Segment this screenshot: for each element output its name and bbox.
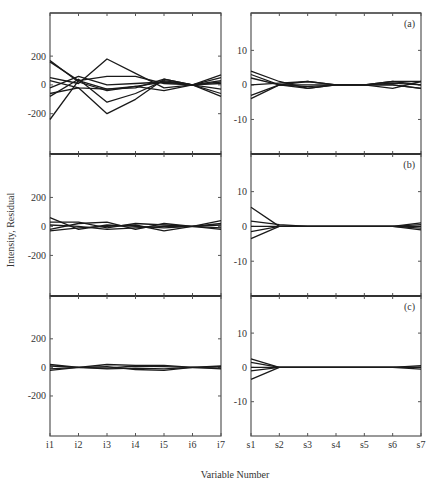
y-tick-label: 10 bbox=[237, 45, 247, 56]
x-tick-label: i5 bbox=[160, 439, 168, 450]
x-tick-label: i6 bbox=[189, 439, 197, 450]
x-tick-label: i4 bbox=[132, 439, 140, 450]
x-tick-label: s3 bbox=[303, 439, 312, 450]
x-tick-label: s4 bbox=[332, 439, 341, 450]
panel-tag: (b) bbox=[403, 159, 415, 171]
x-axis-title: Variable Number bbox=[201, 469, 270, 480]
y-tick-label: -200 bbox=[28, 108, 46, 119]
y-tick-label: 0 bbox=[242, 79, 247, 90]
x-tick-label: s2 bbox=[275, 439, 284, 450]
y-tick-label: 0 bbox=[41, 79, 46, 90]
y-tick-label: 0 bbox=[242, 362, 247, 373]
y-tick-label: -10 bbox=[234, 114, 247, 125]
y-tick-label: -10 bbox=[234, 256, 247, 267]
y-tick-label: 200 bbox=[31, 51, 46, 62]
panel-2-0: 2000-200i1i2i3i4i5i6i7 bbox=[28, 296, 225, 450]
x-tick-label: s6 bbox=[388, 439, 397, 450]
y-tick-label: -10 bbox=[234, 396, 247, 407]
y-tick-label: 10 bbox=[237, 328, 247, 339]
y-tick-label: 200 bbox=[31, 333, 46, 344]
y-tick-label: 0 bbox=[41, 221, 46, 232]
panel-1-0: 2000-200 bbox=[28, 154, 221, 296]
series-line bbox=[251, 207, 421, 226]
x-tick-label: s7 bbox=[417, 439, 426, 450]
panel-0-1: 100-10(a) bbox=[234, 13, 421, 154]
x-tick-label: s1 bbox=[247, 439, 256, 450]
x-tick-label: i3 bbox=[103, 439, 111, 450]
x-tick-label: i1 bbox=[46, 439, 54, 450]
x-tick-label: i2 bbox=[75, 439, 83, 450]
y-tick-label: 0 bbox=[242, 221, 247, 232]
y-tick-label: 0 bbox=[41, 362, 46, 373]
y-tick-label: 200 bbox=[31, 192, 46, 203]
panel-2-1: 100-10s1s2s3s4s5s6s7(c) bbox=[234, 296, 426, 450]
series-line bbox=[50, 62, 221, 97]
y-tick-label: 10 bbox=[237, 186, 247, 197]
figure: 2000-200100-10(a)2000-200100-10(b)2000-2… bbox=[0, 0, 435, 484]
panel-tag: (c) bbox=[404, 301, 415, 313]
panel-0-0: 2000-200 bbox=[28, 13, 221, 154]
y-tick-label: -200 bbox=[28, 390, 46, 401]
panel-tag: (a) bbox=[404, 18, 415, 30]
y-axis-title: Intensity, Residual bbox=[5, 193, 16, 268]
series-line bbox=[251, 226, 421, 238]
panel-1-1: 100-10(b) bbox=[234, 154, 421, 296]
x-tick-label: s5 bbox=[360, 439, 369, 450]
series-line bbox=[251, 359, 421, 368]
y-tick-label: -200 bbox=[28, 250, 46, 261]
series-line bbox=[251, 367, 421, 379]
x-tick-label: i7 bbox=[217, 439, 225, 450]
